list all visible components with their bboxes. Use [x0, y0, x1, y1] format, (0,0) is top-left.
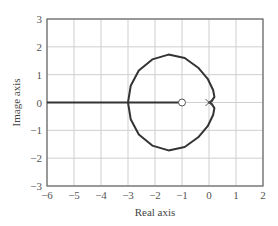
x-tick-label: 1 — [233, 189, 239, 201]
x-tick-label: 0 — [206, 189, 212, 201]
x-tick-label: −1 — [176, 189, 188, 201]
x-tick-label: −4 — [95, 189, 107, 201]
y-axis-label: Image axis — [10, 79, 22, 127]
y-tick-label: −1 — [30, 124, 42, 136]
x-axis-label: Real axis — [135, 206, 176, 218]
y-tick-label: 2 — [37, 41, 43, 53]
x-tick-label: −3 — [122, 189, 134, 201]
y-tick-label: −2 — [30, 152, 42, 164]
y-tick-label: 0 — [37, 97, 43, 109]
x-tick-label: 2 — [260, 189, 266, 201]
zero-marker-icon — [179, 99, 186, 106]
y-tick-label: 1 — [37, 69, 43, 81]
x-tick-label: −2 — [149, 189, 161, 201]
x-tick-label: −6 — [41, 189, 53, 201]
x-tick-label: −5 — [68, 189, 80, 201]
y-tick-label: 3 — [37, 13, 43, 25]
root-locus-chart: −6−5−4−3−2−10123210−1−2−3Real axisImage … — [0, 0, 278, 226]
y-tick-label: −3 — [30, 180, 42, 192]
